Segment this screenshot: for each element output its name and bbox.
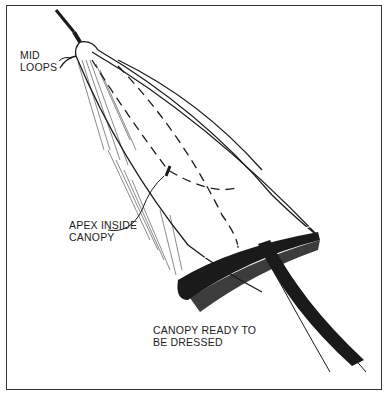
label-mid-loops-line1: MID: [20, 49, 40, 61]
suspension-lines: [258, 240, 366, 372]
label-ready-line1: CANOPY READY TO: [153, 324, 256, 336]
apex-mark: [166, 166, 170, 176]
label-ready-line2: BE DRESSED: [153, 336, 223, 348]
cord: [56, 10, 80, 42]
label-canopy-ready: CANOPY READY TO BE DRESSED: [153, 324, 256, 348]
leader-lines: [59, 57, 164, 230]
label-apex-line2: CANOPY: [69, 231, 115, 243]
label-mid-loops: MID LOOPS: [20, 49, 57, 73]
label-apex-inside: APEX INSIDE CANOPY: [69, 219, 137, 243]
label-mid-loops-line2: LOOPS: [20, 61, 57, 73]
label-apex-line1: APEX INSIDE: [69, 219, 137, 231]
